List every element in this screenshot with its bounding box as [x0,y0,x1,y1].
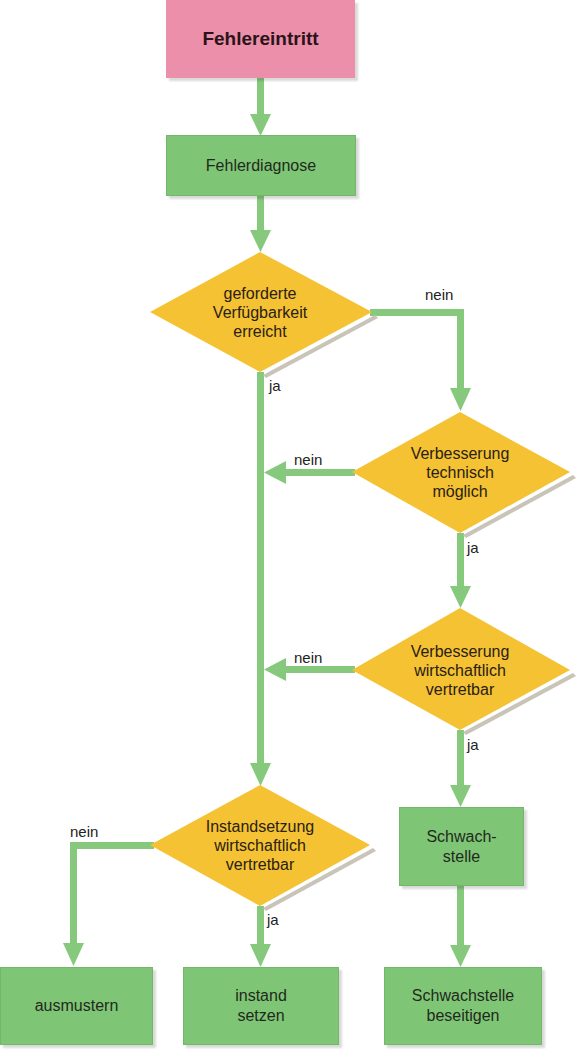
arrowhead-icon [250,763,271,786]
decision3-line1: Verbesserung [411,642,510,661]
weakpoint-node: Schwach- stelle [399,807,524,886]
scrap-node-label: ausmustern [35,996,119,1016]
decision4-line2: wirtschaftlich [214,836,306,855]
connector-decision3-no [283,666,355,673]
decision1-no-label: nein [425,287,453,303]
decision1-line2: Verfügbarkeit [213,303,307,322]
connector-decision4-no [70,842,154,849]
decision4-no-label: nein [70,824,98,840]
fix-weakpoint-node-line1: Schwachstelle [412,986,514,1006]
decision1-yes-label: ja [269,378,281,394]
start-node: Fehlereintritt [166,0,355,78]
arrowhead-icon [450,785,471,807]
decision3-text: Verbesserung wirtschaftlich vertretbar [370,640,550,700]
repair-node: instand setzen [183,967,339,1045]
connector-decision1-no [370,309,464,316]
arrowhead-icon [450,586,471,608]
decision2-line2: technisch [426,463,494,482]
weakpoint-node-line2: stelle [443,847,480,867]
scrap-node: ausmustern [0,967,153,1045]
connector-decision4-no-down [70,842,77,946]
arrowhead-icon [250,114,271,136]
fix-weakpoint-node: Schwachstelle beseitigen [384,967,542,1045]
arrowhead-icon [250,944,271,967]
decision3-line3: vertretbar [426,680,494,699]
connector-weakpoint-fix [457,885,464,947]
arrowhead-icon [250,230,271,252]
decision3-no-label: nein [294,650,322,666]
connector-start-diagnose [257,78,264,116]
diagnose-node: Fehlerdiagnose [166,135,356,196]
connector-decision2-yes [457,533,464,588]
connector-decision4-yes [257,906,264,946]
connector-diagnose-decision1 [257,195,264,233]
decision3-line2: wirtschaftlich [414,661,506,680]
decision4-line3: vertretbar [226,855,294,874]
decision2-text: Verbesserung technisch möglich [370,442,550,502]
decision1-line1: geforderte [224,284,297,303]
decision2-line1: Verbesserung [411,444,510,463]
decision2-yes-label: ja [467,540,479,556]
decision3-yes-label: ja [467,737,479,753]
decision2-line3: möglich [432,482,487,501]
decision4-line1: Instandsetzung [206,817,315,836]
decision1-text: geforderte Verfügbarkeit erreicht [170,282,350,342]
arrowhead-icon [450,945,471,967]
weakpoint-node-line1: Schwach- [426,827,496,847]
arrowhead-icon [264,658,286,681]
decision4-text: Instandsetzung wirtschaftlich vertretbar [170,815,350,875]
connector-decision3-yes [457,730,464,788]
connector-decision2-no [283,469,355,476]
arrowhead-icon [63,943,84,966]
decision4-yes-label: ja [267,912,279,928]
start-node-label: Fehlereintritt [202,29,318,49]
repair-node-line2: setzen [237,1006,284,1026]
connector-decision1-no-down [457,309,464,391]
decision2-no-label: nein [294,452,322,468]
connector-decision1-yes [257,372,264,765]
arrowhead-icon [450,388,471,411]
repair-node-line1: instand [235,986,287,1006]
fix-weakpoint-node-line2: beseitigen [427,1006,500,1026]
decision1-line3: erreicht [233,322,286,341]
diagnose-node-label: Fehlerdiagnose [206,156,316,176]
arrowhead-icon [264,461,286,484]
